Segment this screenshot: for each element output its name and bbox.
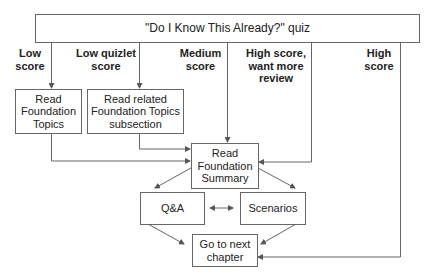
box-read-foundation-topics-label: Read Foundation Topics <box>21 93 76 131</box>
quiz-box-label: "Do I Know This Already?" quiz <box>145 22 310 35</box>
label-low-score: Low score <box>14 47 46 72</box>
box-next-chapter: Go to next chapter <box>192 234 258 267</box>
box-read-related-subsection: Read related Foundation Topics subsectio… <box>87 89 184 134</box>
label-high-score-review: High score, want more review <box>244 47 308 85</box>
box-scenarios: Scenarios <box>240 192 306 225</box>
box-scenarios-label: Scenarios <box>249 202 298 215</box>
label-high-score: High score <box>362 47 396 72</box>
quiz-box: "Do I Know This Already?" quiz <box>35 14 420 43</box>
box-qa-label: Q&A <box>161 202 184 215</box>
box-next-chapter-label: Go to next chapter <box>200 238 251 263</box>
box-read-related-label: Read related Foundation Topics subsectio… <box>91 93 180 131</box>
box-qa: Q&A <box>140 192 205 225</box>
box-read-foundation-summary: Read Foundation Summary <box>191 143 259 189</box>
label-low-quizlet-score: Low quizlet score <box>76 47 136 72</box>
label-medium-score: Medium score <box>177 47 224 72</box>
box-read-summary-label: Read Foundation Summary <box>197 147 252 185</box>
box-read-foundation-topics: Read Foundation Topics <box>15 89 82 134</box>
